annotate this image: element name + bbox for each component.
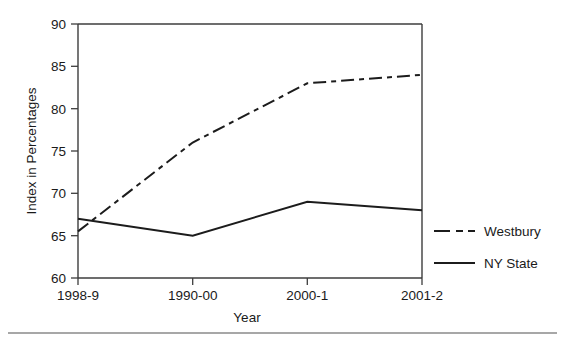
series-line-westbury bbox=[78, 75, 422, 232]
x-axis-title: Year bbox=[233, 310, 261, 325]
x-axis-tick-labels: 1998-9 1990-00 2000-1 2001-2 bbox=[57, 288, 443, 303]
legend-label-westbury: Westbury bbox=[484, 224, 541, 239]
x-tick-label-2000-1: 2000-1 bbox=[286, 288, 328, 303]
y-tick-label-70: 70 bbox=[51, 186, 66, 201]
y-tick-label-90: 90 bbox=[51, 17, 66, 32]
y-axis-tick-labels: 90 85 80 75 70 65 60 bbox=[51, 17, 66, 286]
plot-axes bbox=[78, 24, 422, 278]
series-line-ny-state bbox=[78, 202, 422, 236]
legend-label-ny-state: NY State bbox=[484, 256, 538, 271]
y-axis-ticks bbox=[71, 24, 78, 278]
legend-item-westbury[interactable]: Westbury bbox=[434, 224, 541, 239]
y-tick-label-60: 60 bbox=[51, 271, 66, 286]
y-tick-label-80: 80 bbox=[51, 102, 66, 117]
y-tick-label-85: 85 bbox=[51, 59, 66, 74]
y-tick-label-65: 65 bbox=[51, 229, 66, 244]
x-tick-label-2001-2: 2001-2 bbox=[401, 288, 443, 303]
chart-legend: Westbury NY State bbox=[434, 224, 541, 271]
chart-figure: 90 85 80 75 70 65 60 1998-9 1990-00 2000… bbox=[0, 0, 565, 345]
x-tick-label-1998-9: 1998-9 bbox=[57, 288, 99, 303]
y-tick-label-75: 75 bbox=[51, 144, 66, 159]
x-tick-label-1990-00: 1990-00 bbox=[168, 288, 218, 303]
line-chart: 90 85 80 75 70 65 60 1998-9 1990-00 2000… bbox=[0, 0, 565, 345]
x-axis-ticks bbox=[78, 278, 422, 285]
y-axis-title: Index in Percentages bbox=[24, 87, 39, 214]
legend-item-ny-state[interactable]: NY State bbox=[434, 256, 538, 271]
